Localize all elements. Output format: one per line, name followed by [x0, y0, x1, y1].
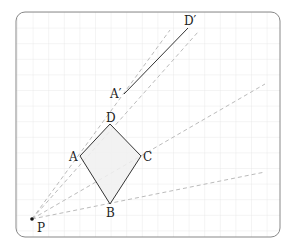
label-a-prime: A′ [109, 87, 122, 101]
label-p: P [37, 221, 45, 235]
label-d-prime: D′ [184, 14, 197, 28]
center-point-p [30, 217, 34, 221]
grid-background [16, 12, 280, 237]
label-b: B [106, 206, 115, 220]
label-c: C [143, 150, 152, 164]
dilation-diagram: P A B C D A′ D′ [0, 0, 293, 250]
label-a: A [68, 150, 78, 164]
label-d: D [106, 111, 116, 125]
